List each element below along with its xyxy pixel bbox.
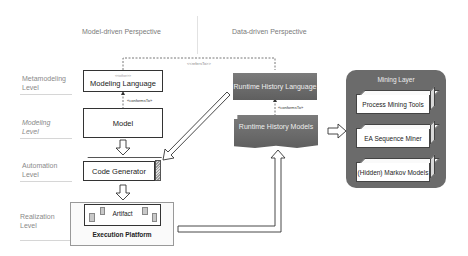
conforms-to-label: «conformsTo» [127,98,152,103]
model-box: Model [83,108,163,138]
component-icon [89,213,95,222]
component-icon [100,207,105,215]
artifact-title: Artifact [85,210,160,217]
conforms-to-label: «conformsTo» [278,105,303,110]
refers-to-label: <<refersTo>> [187,61,211,66]
mining-layer-title: Mining Layer [346,76,446,83]
process-mining-tools-box: Process Mining Tools [356,94,430,114]
modeling-language-title: Modeling Language [90,79,156,88]
code-generator-side [155,160,161,181]
stereotype-label: <<other>> [115,74,131,78]
runtime-history-models-title: Runtime History Models [234,122,318,132]
runtime-history-models-box: Runtime History Models [234,115,318,148]
code-generator-title: Code Generator [92,167,146,176]
component-icon [152,213,157,222]
execution-platform-box: Artifact Execution Platform [70,202,174,246]
model-title: Model [113,119,133,128]
hidden-markov-models-box: (Hidden) Markov Models [356,162,430,182]
component-icon [142,207,148,215]
modeling-language-box: <<other>> Modeling Language [83,70,163,92]
code-generator-top [84,157,162,162]
runtime-history-language-box: Runtime History Language [233,73,317,100]
ea-sequence-miner-box: EA Sequence Miner [356,128,430,148]
execution-platform-title: Execution Platform [71,231,173,238]
artifact-box: Artifact [84,204,161,226]
mining-layer: Mining Layer Process Mining Tools EA Seq… [346,70,446,188]
code-generator-box: Code Generator [83,161,155,181]
